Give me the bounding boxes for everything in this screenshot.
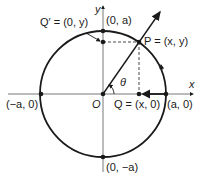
left-label: (−a, 0) (6, 98, 38, 110)
point-top (101, 29, 106, 34)
point-origin (101, 92, 106, 97)
point-p (137, 40, 142, 45)
qprime-pointer (86, 33, 100, 41)
point-qprime (101, 40, 106, 45)
top-label: (0, a) (106, 14, 132, 26)
right-label: (a, 0) (167, 98, 193, 110)
x-axis-label: x (188, 78, 195, 90)
qprime-label: Q′ = (0, y) (40, 16, 88, 28)
point-left (39, 92, 44, 97)
theta-arc (109, 85, 114, 94)
point-right (164, 92, 169, 97)
point-q (137, 92, 142, 97)
q-label: Q = (x, 0) (114, 98, 160, 110)
y-axis-label: y (94, 3, 102, 15)
point-bottom (101, 155, 106, 160)
bottom-label: (0, −a) (106, 161, 138, 173)
p-label: P = (x, y) (144, 35, 188, 47)
theta-label: θ (120, 76, 126, 88)
unit-circle-diagram: y x (0, a) Q′ = (0, y) P = (x, y) θ (−a,… (0, 0, 203, 181)
origin-label: O (92, 98, 101, 110)
